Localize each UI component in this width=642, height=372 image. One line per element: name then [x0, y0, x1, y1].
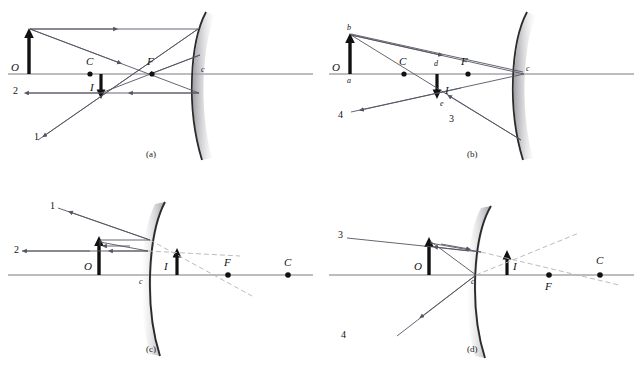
- label-ray-1-a: 1: [34, 132, 39, 142]
- label-object-a: O: [11, 62, 19, 73]
- incident-toward-focus-ray: [100, 242, 148, 251]
- caption-d: (d): [467, 344, 478, 354]
- panel-b-drawing: [321, 0, 642, 186]
- incident-through-focus-arrow: [30, 29, 120, 63]
- label-object-c: O: [84, 261, 92, 272]
- label-ray-3-d: 3: [338, 230, 343, 240]
- mirror-ray-diagram-figure: O C F c I 1 2 (a): [0, 0, 642, 372]
- caption-a: (a): [146, 149, 156, 159]
- label-focus-d: F: [545, 281, 552, 292]
- center-dot: [401, 71, 406, 76]
- panel-d: O I c F C 3 4 (d): [321, 186, 642, 372]
- center-dot: [597, 272, 603, 278]
- focus-dot: [149, 71, 154, 76]
- label-ray-2-c: 2: [14, 245, 19, 255]
- label-object-b: O: [332, 62, 340, 73]
- panel-c: O I c F C 1 2 (c): [0, 186, 321, 372]
- label-point-e-b: e: [440, 100, 444, 108]
- label-object-d: O: [414, 261, 422, 272]
- label-point-d-b: d: [434, 60, 438, 68]
- object-arrow-head: [94, 236, 104, 246]
- label-point-a-b: a: [347, 77, 351, 85]
- panel-a-drawing: [0, 0, 321, 186]
- label-vertex-c: c: [139, 278, 143, 286]
- ray-3-arrow: [449, 96, 521, 140]
- label-focus-a: F: [147, 56, 154, 67]
- object-arrow-head: [424, 237, 434, 247]
- center-dot: [285, 272, 291, 278]
- label-vertex-a: c: [201, 66, 205, 74]
- label-ray-2-a: 2: [13, 86, 18, 96]
- focus-dot: [225, 272, 231, 278]
- virtual-extension-1: [476, 233, 579, 275]
- label-ray-1-c: 1: [50, 201, 55, 211]
- caption-c: (c): [146, 344, 156, 354]
- label-ray-3-b: 3: [449, 114, 454, 124]
- label-center-a: C: [86, 56, 93, 67]
- focus-dot: [546, 272, 552, 278]
- focus-dot: [465, 71, 470, 76]
- label-center-c: C: [284, 257, 291, 268]
- center-dot: [87, 71, 92, 76]
- reflected-ray-1-arrow: [70, 212, 150, 240]
- label-ray-4-b: 4: [338, 110, 343, 120]
- panel-d-drawing: [321, 186, 642, 372]
- panel-a: O C F c I 1 2 (a): [0, 0, 321, 186]
- panel-b: O a b C d F c I e 4 3 (b): [321, 0, 642, 186]
- label-image-c: I: [164, 261, 168, 272]
- label-vertex-b: c: [526, 65, 530, 73]
- ray-b-to-vertex-arrow: [351, 35, 441, 55]
- reflected-through-focus-arrow: [44, 29, 198, 136]
- label-focus-c: F: [224, 257, 231, 268]
- caption-b: (b): [467, 149, 478, 159]
- label-center-d: C: [596, 255, 603, 266]
- label-image-b: I: [445, 85, 449, 96]
- label-center-b: C: [399, 56, 406, 67]
- label-vertex-d: c: [471, 278, 475, 286]
- panel-c-drawing: [0, 186, 321, 372]
- label-point-b-b: b: [347, 24, 351, 32]
- label-image-d: I: [513, 261, 517, 272]
- label-focus-b: F: [461, 56, 468, 67]
- label-image-a: I: [90, 82, 94, 93]
- label-ray-4-d: 4: [341, 330, 346, 340]
